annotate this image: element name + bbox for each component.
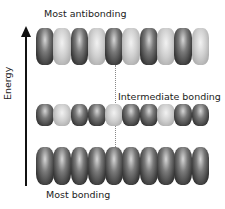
row-most-bonding xyxy=(36,147,209,185)
orbital-lobe-dark xyxy=(192,147,210,185)
orbital-lobe-dark xyxy=(71,28,89,65)
orbital-lobe-light xyxy=(192,28,210,65)
orbital-lobe-dark xyxy=(88,104,106,126)
orbital-lobe-dark xyxy=(192,104,210,126)
orbital-lobe-dark xyxy=(140,28,158,65)
orbital-lobe-dark xyxy=(122,147,140,185)
orbital-lobe-light xyxy=(122,28,140,65)
orbital-lobe-dark xyxy=(71,147,89,185)
orbital-lobe-light xyxy=(105,104,123,126)
row-most-antibonding xyxy=(36,28,209,65)
orbital-lobe-dark xyxy=(157,147,175,185)
orbital-lobe-light xyxy=(53,104,71,126)
orbital-lobe-dark xyxy=(105,28,123,65)
orbital-lobe-dark xyxy=(140,147,158,185)
orbital-lobe-light xyxy=(88,28,106,65)
orbital-lobe-dark xyxy=(122,104,140,126)
label-most-antibonding: Most antibonding xyxy=(44,8,127,19)
energy-axis-label: Energy xyxy=(2,67,13,100)
orbital-lobe-dark xyxy=(36,147,54,185)
orbital-lobe-dark xyxy=(174,147,192,185)
label-most-bonding: Most bonding xyxy=(46,189,110,200)
orbital-lobe-dark xyxy=(174,28,192,65)
orbital-lobe-dark xyxy=(36,28,54,65)
orbital-lobe-dark xyxy=(88,147,106,185)
orbital-lobe-dark xyxy=(53,147,71,185)
orbital-lobe-light xyxy=(157,28,175,65)
axis-arrowhead-icon xyxy=(21,26,31,37)
label-intermediate-bonding: Intermediate bonding xyxy=(118,91,221,102)
orbital-lobe-dark xyxy=(174,104,192,126)
orbital-lobe-dark xyxy=(36,104,54,126)
row-intermediate-bonding xyxy=(36,104,209,126)
orbital-lobe-dark xyxy=(71,104,89,126)
orbital-lobe-dark xyxy=(105,147,123,185)
orbital-lobe-light xyxy=(157,104,175,126)
axis-arrow-line xyxy=(25,34,27,186)
orbital-lobe-light xyxy=(53,28,71,65)
orbital-lobe-dark xyxy=(140,104,158,126)
